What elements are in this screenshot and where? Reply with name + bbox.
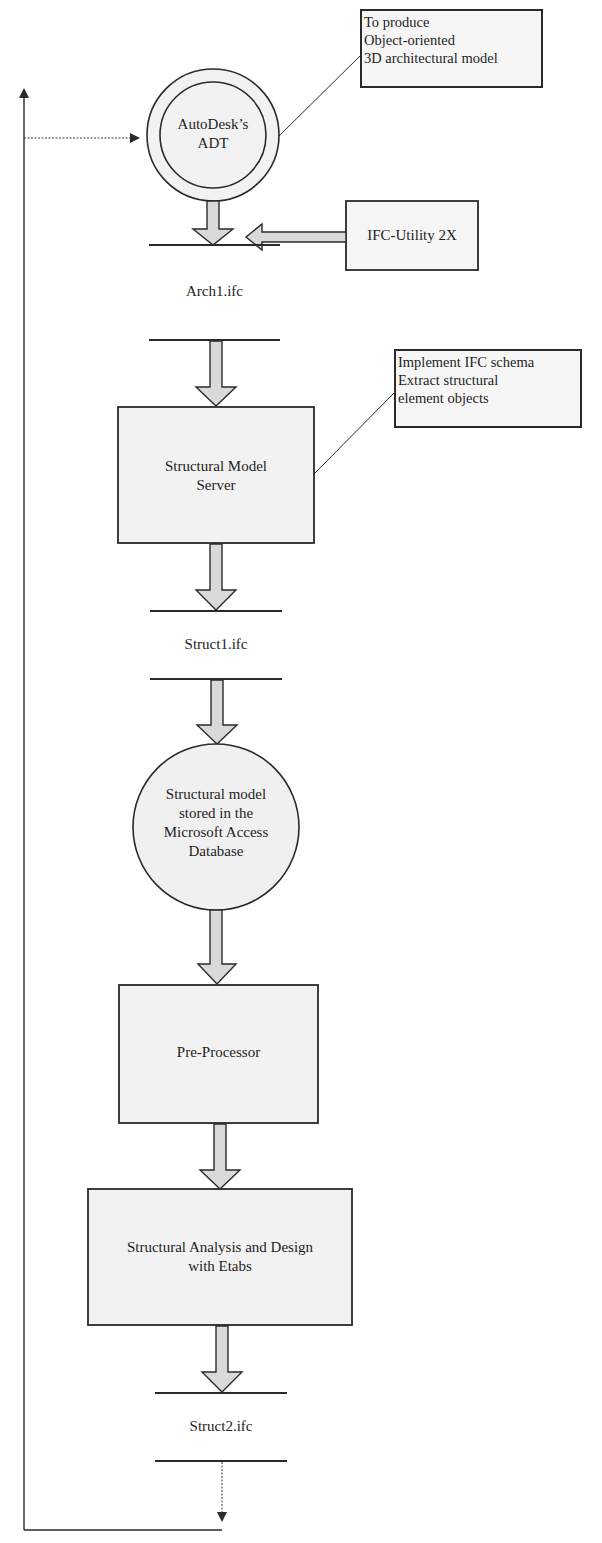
struct1-label: Struct1.ifc [150,635,282,654]
sms-note: Implement IFC schema Extract structural … [396,353,583,407]
analysis-label-line-1: Structural Analysis and Design [88,1238,352,1257]
arrow-adt-to-arch1 [193,201,233,245]
sms-label-line-1: Structural Model [118,457,314,476]
adt-note: To produce Object-oriented 3D architectu… [362,13,544,67]
sms-note-line-2: Extract structural [398,371,583,389]
arrow-arch1-to-sms [196,341,236,406]
adt-note-line-1: To produce [364,13,544,31]
sms-label-line-2: Server [118,476,314,495]
arrow-sms-to-struct1 [196,544,236,610]
arrow-db-to-preprocessor [198,910,236,984]
database-label: Structural model stored in the Microsoft… [141,785,291,861]
arrow-preprocessor-to-analysis [200,1124,240,1189]
structural-model-server-label: Structural Model Server [118,457,314,495]
sms-note-line-1: Implement IFC schema [398,353,583,371]
flowchart-canvas [0,0,602,1543]
adt-note-line-3: 3D architectural model [364,49,544,67]
db-label-line-2: stored in the [141,804,291,823]
adt-label-line-1: AutoDesk’s [153,115,273,134]
ifc-utility-label: IFC-Utility 2X [346,226,478,245]
structural-analysis-label: Structural Analysis and Design with Etab… [88,1238,352,1276]
arch1-label: Arch1.ifc [149,282,280,301]
adt-note-line-2: Object-oriented [364,31,544,49]
db-label-line-1: Structural model [141,785,291,804]
sms-note-line-3: element objects [398,389,583,407]
adt-label: AutoDesk’s ADT [153,115,273,153]
analysis-label-line-2: with Etabs [88,1257,352,1276]
adt-label-line-2: ADT [153,134,273,153]
db-label-line-3: Microsoft Access [141,823,291,842]
arrow-analysis-to-struct2 [202,1326,242,1392]
arrow-ifc-utility-to-flow [246,224,346,250]
db-label-line-4: Database [141,842,291,861]
pre-processor-label: Pre-Processor [119,1043,318,1062]
arrow-struct1-to-db [197,680,237,744]
sms-note-leader-line [314,392,395,474]
struct2-label: Struct2.ifc [155,1417,287,1436]
adt-note-leader-line [279,55,361,136]
